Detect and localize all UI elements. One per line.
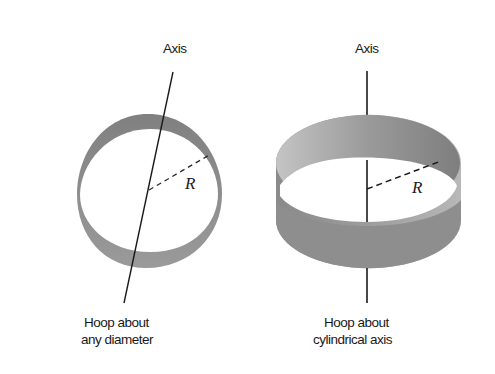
left-axis-label: Axis (163, 41, 187, 56)
left-radius-label: R (184, 174, 196, 193)
right-caption-line2: cylindrical axis (313, 332, 393, 347)
hoop-moment-of-inertia-figure: Axis R Hoop about any diameter Axis (0, 0, 495, 374)
left-caption-line1: Hoop about (84, 315, 150, 330)
right-caption-line1: Hoop about (324, 315, 390, 330)
right-hoop (276, 115, 461, 268)
left-caption-line2: any diameter (81, 332, 154, 347)
right-axis-label: Axis (355, 41, 379, 56)
right-radius-label: R (411, 178, 423, 197)
